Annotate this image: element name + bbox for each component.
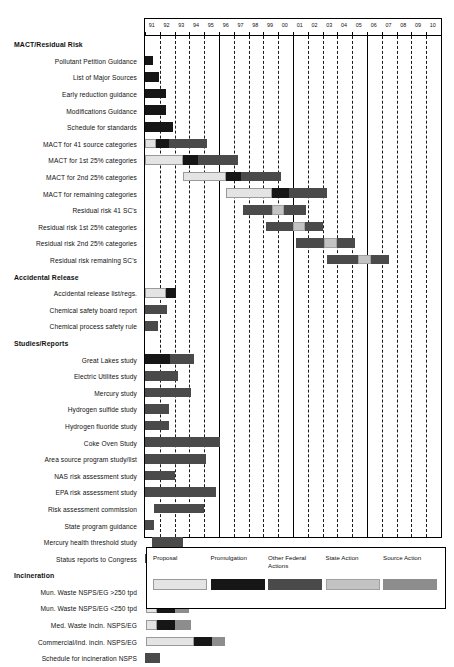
label-text: Chemical safety board report <box>50 306 137 313</box>
task-label-column: MACT/Residual RiskPollutant Petition Gui… <box>0 36 141 667</box>
bar-row <box>145 634 441 651</box>
label-text: Commercial/ind. incin. NSPS/EG <box>38 638 137 645</box>
bar-segment-promulgation <box>156 139 169 149</box>
legend-label: Other Federal Actions <box>268 554 324 570</box>
bar-segment-promulgation <box>145 56 153 66</box>
bar-row <box>145 468 441 485</box>
bar-row <box>145 434 441 451</box>
label-text: MACT for 41 source categories <box>43 140 137 147</box>
task-label: Hydrogen sulfide study <box>0 401 141 418</box>
bar-segment-promulgation <box>145 354 170 364</box>
task-label: Mercury health threshold study <box>0 534 141 551</box>
bar-row <box>145 335 441 352</box>
task-label: Residual risk 41 SC's <box>0 202 141 219</box>
bar-row <box>145 252 441 269</box>
bar-segment-promulgation <box>145 122 173 132</box>
plot-area: 9192939495969798990001020304050607080910 <box>144 18 442 538</box>
task-label: Accidental release list/regs. <box>0 285 141 302</box>
task-group-label: Accidental Release <box>0 268 141 285</box>
bar-segment-promulgation <box>145 105 166 115</box>
task-label: Pollutant Petition Guidance <box>0 53 141 70</box>
bar-segment-other <box>371 255 389 265</box>
bar-segment-state <box>358 255 371 265</box>
axis-tick-label: 99 <box>267 22 273 28</box>
task-group-label: MACT/Residual Risk <box>0 36 141 53</box>
bar-segment-other <box>145 437 220 447</box>
bar-row <box>145 501 441 518</box>
bar-row <box>145 169 441 186</box>
legend-label: Source Action <box>383 554 439 562</box>
task-label: Area source program study/list <box>0 451 141 468</box>
bar-segment-other <box>145 471 175 481</box>
bar-row <box>145 285 441 302</box>
axis-tick-label: 02 <box>311 22 317 28</box>
task-label: Residual risk 1st 25% categories <box>0 219 141 236</box>
axis-tick-label: 03 <box>326 22 332 28</box>
bar-segment-other <box>145 371 178 381</box>
task-label: Early reduction guidance <box>0 86 141 103</box>
bar-segment-state <box>293 222 305 232</box>
task-label: State program guidance <box>0 517 141 534</box>
legend-item-promulgation: Promulgation <box>211 554 267 602</box>
task-label: EPA risk assessment study <box>0 484 141 501</box>
task-group-label: Incineration <box>0 567 141 584</box>
task-label: Status reports to Congress <box>0 550 141 567</box>
label-text: Coke Oven Study <box>84 439 137 446</box>
task-label: Schedule for incineration NSPS <box>0 650 141 667</box>
bar-row <box>145 484 441 501</box>
legend-items: ProposalPromulgationOther Federal Action… <box>153 554 439 602</box>
bar-row <box>145 219 441 236</box>
bar-segment-proposal <box>146 620 156 630</box>
axis-tick-mark <box>263 32 264 35</box>
label-text: Hydrogen fluoride study <box>65 422 137 429</box>
label-text: Accidental release list/regs. <box>54 290 137 297</box>
label-text: Mercury health threshold study <box>44 539 137 546</box>
label-text: Pollutant Petition Guidance <box>55 57 137 64</box>
bar-segment-promulgation <box>157 620 175 630</box>
bar-segment-proposal <box>146 637 193 647</box>
bar-row <box>145 617 441 634</box>
task-label: Mun. Waste NSPS/EG <250 tpd <box>0 600 141 617</box>
axis-tick-label: 07 <box>385 22 391 28</box>
legend-swatch <box>268 579 322 590</box>
legend-label: Promulgation <box>211 554 267 562</box>
task-label: Mercury study <box>0 384 141 401</box>
axis-tick-mark <box>249 32 250 35</box>
task-label: Electric Utilites study <box>0 368 141 385</box>
label-text: Schedule for standards <box>67 124 137 131</box>
axis-tick-mark <box>189 32 190 35</box>
label-text: Incineration <box>14 572 54 579</box>
legend: ProposalPromulgationOther Federal Action… <box>146 547 446 609</box>
legend-swatch <box>211 579 265 590</box>
bar-segment-proposal <box>145 155 183 165</box>
bar-segment-other <box>145 388 191 398</box>
bar-row <box>145 202 441 219</box>
label-text: Electric Utilites study <box>74 373 137 380</box>
label-text: Mercury study <box>94 389 137 396</box>
bar-row <box>145 119 441 136</box>
label-text: Residual risk 1st 25% categories <box>38 223 137 230</box>
task-label: Commercial/ind. incin. NSPS/EG <box>0 633 141 650</box>
task-label: MACT for 2nd 25% categories <box>0 169 141 186</box>
axis-tick-label: 05 <box>356 22 362 28</box>
axis-tick-mark <box>204 32 205 35</box>
legend-swatch <box>383 579 437 590</box>
task-label: Residual risk 2nd 25% categories <box>0 235 141 252</box>
bar-segment-state <box>272 205 284 215</box>
task-label: NAS risk assessment study <box>0 467 141 484</box>
axis-tick-label: 01 <box>297 22 303 28</box>
bar-segment-other <box>145 421 169 431</box>
label-text: Med. Waste Incin. NSPS/EG <box>51 622 137 629</box>
bar-segment-source <box>212 637 225 647</box>
bar-row <box>145 517 441 534</box>
task-label: MACT for remaining categories <box>0 185 141 202</box>
bar-segment-other <box>337 238 355 248</box>
bar-segment-promulgation <box>183 155 198 165</box>
bar-row <box>145 69 441 86</box>
task-label: MACT for 41 source categories <box>0 136 141 153</box>
bar-row <box>145 185 441 202</box>
bar-row <box>145 136 441 153</box>
bar-segment-source <box>175 620 191 630</box>
axis-tick-mark <box>278 32 279 35</box>
legend-label: Proposal <box>153 554 209 562</box>
